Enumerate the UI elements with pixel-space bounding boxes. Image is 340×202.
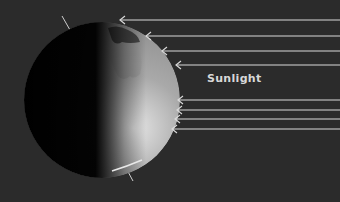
earth-sunlight-diagram xyxy=(0,0,340,202)
earth-globe xyxy=(20,18,200,188)
sunlight-arrow xyxy=(178,96,340,104)
sunlight-arrow xyxy=(172,125,340,133)
sunlight-arrow xyxy=(177,106,340,114)
sunlight-arrow xyxy=(146,32,340,40)
sunlight-arrow xyxy=(162,47,340,55)
sunlight-arrow xyxy=(120,16,340,24)
sunlight-arrow xyxy=(175,115,340,123)
sunlight-arrow xyxy=(176,61,340,69)
sunlight-label: Sunlight xyxy=(207,72,262,85)
earth-axis-top xyxy=(62,16,70,30)
